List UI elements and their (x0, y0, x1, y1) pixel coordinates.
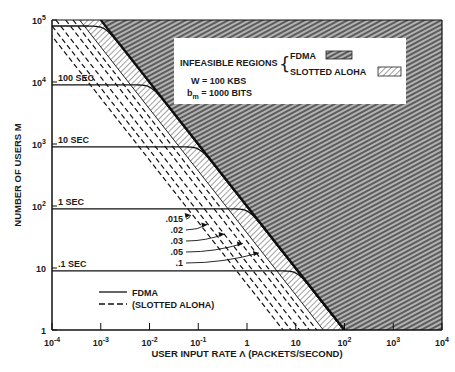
fdma-curve-label: 1 SEC (58, 197, 85, 207)
param-w: W = 100 KBS (191, 76, 246, 86)
aloha-curve-label: .02 (170, 225, 183, 235)
y-tick-label: 1 (41, 326, 46, 336)
arrowhead-icon (218, 232, 224, 237)
x-tick-label: 1 (244, 338, 249, 348)
brace-icon: { (279, 53, 290, 74)
aloha-curve-label: .05 (170, 247, 183, 257)
infeasible-aloha-label: SLOTTED ALOHA (290, 67, 367, 77)
y-tick-label: 10 (36, 264, 46, 274)
fdma-swatch (326, 51, 352, 59)
line-legend: FDMA (SLOTTED ALOHA) (99, 288, 214, 310)
infeasible-title: INFEASIBLE REGIONS (180, 58, 278, 68)
x-tick-label: 104 (435, 336, 449, 348)
y-ticks: 110102103104105 (32, 14, 57, 336)
label-arrow (186, 253, 259, 263)
fdma-curve-label: 100 SEC (58, 73, 95, 83)
aloha-curve-label: .03 (170, 236, 183, 246)
x-tick-label: 10-3 (93, 336, 109, 348)
aloha-swatch (378, 67, 401, 76)
x-tick-label: 102 (338, 336, 352, 348)
y-tick-label: 104 (32, 76, 46, 88)
y-tick-label: 105 (32, 14, 46, 26)
fdma-curve-label: 10 SEC (58, 135, 90, 145)
y-tick-label: 102 (32, 200, 46, 212)
legend-aloha-label: (SLOTTED ALOHA) (132, 300, 214, 310)
aloha-curve-label: .1 (175, 258, 183, 268)
chart: 10-410-310-210-1110102103104 11010210310… (0, 0, 455, 372)
x-tick-label: 10 (291, 338, 301, 348)
x-tick-label: 10-2 (141, 336, 157, 348)
aloha-curve-label: .015 (165, 214, 183, 224)
x-tick-label: 10-4 (44, 336, 60, 348)
infeasible-fdma-label: FDMA (290, 51, 316, 61)
y-axis-title: NUMBER OF USERS M (12, 123, 23, 227)
x-axis-title: USER INPUT RATE Λ (PACKETS/SECOND) (151, 348, 342, 359)
y-tick-label: 103 (32, 138, 46, 150)
x-tick-label: 10-1 (190, 336, 206, 348)
fdma-curve-label: .1 SEC (58, 259, 87, 269)
x-tick-label: 103 (386, 336, 400, 348)
legend-fdma-label: FDMA (132, 288, 158, 298)
